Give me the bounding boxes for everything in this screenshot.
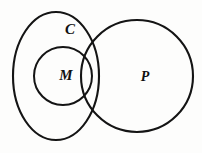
venn-diagram: C M P — [0, 0, 202, 153]
set-label-p: P — [141, 69, 150, 84]
venn-diagram-canvas: C M P — [0, 0, 202, 153]
set-circle-p — [81, 20, 193, 132]
set-label-m: M — [58, 67, 73, 83]
set-circle-c — [13, 12, 99, 140]
set-label-c: C — [65, 21, 76, 37]
